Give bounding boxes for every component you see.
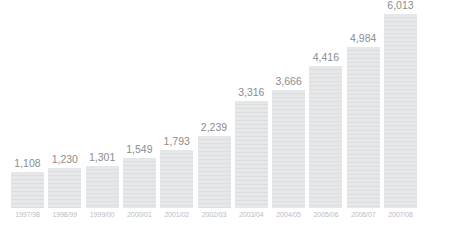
bar-value-label: 4,416 <box>300 51 351 63</box>
bar-group: 1,2301998/99 <box>48 168 81 208</box>
bar-group: 1,7932001/02 <box>160 150 193 208</box>
bar-value-label: 3,666 <box>263 75 314 87</box>
bar-group: 1,5492000/01 <box>123 158 156 208</box>
bar[interactable]: 3,6662004/05 <box>272 90 305 208</box>
category-axis-label: 2007/08 <box>375 211 426 218</box>
bar[interactable]: 4,9842006/07 <box>347 47 380 208</box>
bar[interactable]: 1,5492000/01 <box>123 158 156 208</box>
bar-group: 1,3011999/00 <box>86 166 119 208</box>
bar-value-label: 2,239 <box>189 121 240 133</box>
bar[interactable]: 6,0132007/08 <box>384 14 417 208</box>
bar[interactable]: 1,1081997/98 <box>11 172 44 208</box>
bar[interactable]: 1,2301998/99 <box>48 168 81 208</box>
bar[interactable]: 1,7932001/02 <box>160 150 193 208</box>
bar-value-label: 3,316 <box>226 86 277 98</box>
bar-group: 4,9842006/07 <box>347 47 380 208</box>
bar[interactable]: 1,3011999/00 <box>86 166 119 208</box>
bar-value-label: 1,793 <box>151 135 202 147</box>
bar-chart: 1,1081997/981,2301998/991,3011999/001,54… <box>0 0 452 229</box>
bar-group: 4,4162005/06 <box>309 66 342 208</box>
bar-group: 1,1081997/98 <box>11 172 44 208</box>
bar-group: 3,6662004/05 <box>272 90 305 208</box>
bar[interactable]: 2,2392002/03 <box>198 136 231 208</box>
bar-value-label: 6,013 <box>375 0 426 11</box>
bar-group: 6,0132007/08 <box>384 14 417 208</box>
plot-area: 1,1081997/981,2301998/991,3011999/001,54… <box>0 0 452 229</box>
bar-group: 3,3162003/04 <box>235 101 268 208</box>
bar[interactable]: 3,3162003/04 <box>235 101 268 208</box>
bar-group: 2,2392002/03 <box>198 136 231 208</box>
bar-value-label: 4,984 <box>338 32 389 44</box>
bar[interactable]: 4,4162005/06 <box>309 66 342 208</box>
